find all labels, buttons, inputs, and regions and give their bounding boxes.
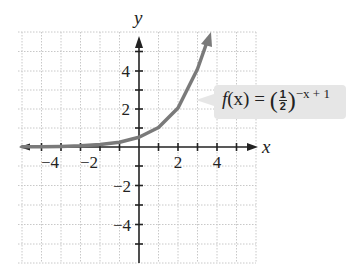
- formula-label: f(x) = (12)−x + 1: [222, 86, 330, 114]
- y-tick-labels: 4 2 −2 −4: [113, 62, 132, 235]
- x-axis-label: x: [261, 136, 271, 157]
- y-axis-arrow-icon: [135, 36, 143, 48]
- graph: y x −4 −2 2 4 4 2 −2 −4: [0, 0, 356, 268]
- curve-f: [22, 42, 207, 147]
- svg-text:4: 4: [122, 62, 131, 81]
- svg-text:−2: −2: [113, 177, 131, 196]
- svg-text:2: 2: [174, 153, 183, 172]
- exponent: −x + 1: [296, 86, 330, 101]
- svg-text:4: 4: [213, 153, 222, 172]
- curve-arrow-icon: [201, 32, 212, 47]
- fraction: 12: [279, 89, 287, 112]
- callout-pointer: [196, 94, 214, 106]
- svg-text:−4: −4: [113, 216, 132, 235]
- svg-text:−4: −4: [41, 153, 60, 172]
- svg-text:2: 2: [122, 100, 131, 119]
- y-axis: [135, 44, 143, 263]
- svg-text:−2: −2: [80, 153, 98, 172]
- x-tick-labels: −4 −2 2 4: [41, 153, 222, 172]
- y-axis-label: y: [132, 7, 143, 28]
